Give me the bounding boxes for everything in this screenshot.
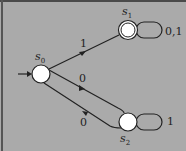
edge-label-s0-s2: 0 xyxy=(79,73,86,84)
state-label-s1: s1 xyxy=(122,6,132,20)
self-loop-s2 xyxy=(136,114,162,130)
automaton-graph xyxy=(0,0,186,151)
self-loop-s1 xyxy=(136,22,162,38)
loop-label-s2: 1 xyxy=(167,116,174,127)
loop-label-s1: 0,1 xyxy=(165,26,183,37)
state-s2 xyxy=(119,113,137,131)
edge-label-s2-s0: 0 xyxy=(80,117,87,128)
state-label-s0: s0 xyxy=(35,51,45,65)
edge-label-s0-s1: 1 xyxy=(80,38,87,49)
state-s0 xyxy=(32,65,50,83)
edge-s0-s2 xyxy=(49,70,124,113)
start-arrow xyxy=(18,71,32,77)
state-s1-accepting xyxy=(119,21,138,40)
state-label-s2: s2 xyxy=(120,133,130,147)
